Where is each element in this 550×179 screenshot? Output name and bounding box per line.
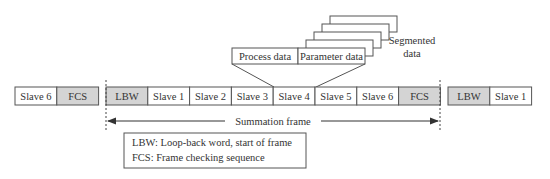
parameter-data-label: Parameter data xyxy=(300,51,363,62)
cell-label: LBW xyxy=(115,91,138,102)
next-frame-head: LBWSlave 1 xyxy=(448,87,532,105)
frame-cell-slave-1: Slave 1 xyxy=(148,87,190,105)
legend-lbw: LBW: Loop-back word, start of frame xyxy=(132,137,292,148)
cell-label: Slave 4 xyxy=(278,91,310,102)
segmented-data-label-line2: data xyxy=(403,48,421,59)
cell-label: Slave 6 xyxy=(362,91,393,102)
cell-label: Slave 1 xyxy=(495,91,526,102)
next-cell-slave-1: Slave 1 xyxy=(490,87,532,105)
summation-frame-label: Summation frame xyxy=(235,116,311,127)
interbus-frame-diagram: Process data Parameter data Segmented da… xyxy=(0,0,550,179)
cell-label: Slave 6 xyxy=(20,91,51,102)
process-data-label: Process data xyxy=(239,51,292,62)
expansion-line-left xyxy=(232,64,274,87)
previous-frame-tail: Slave 6FCS xyxy=(15,87,99,105)
frame-cell-slave-5: Slave 5 xyxy=(315,87,357,105)
cell-label: Slave 1 xyxy=(153,91,184,102)
prev-cell-fcs: FCS xyxy=(57,87,99,105)
frame-cell-slave-6: Slave 6 xyxy=(357,87,399,105)
frame-cell-fcs: FCS xyxy=(399,87,441,105)
segmented-data-label-line1: Segmented xyxy=(389,35,436,46)
cell-label: FCS xyxy=(410,91,429,102)
frame-cell-slave-2: Slave 2 xyxy=(190,87,232,105)
frame-cell-lbw: LBW xyxy=(106,87,148,105)
frame-cell-slave-4: Slave 4 xyxy=(273,87,315,105)
cell-label: FCS xyxy=(68,91,87,102)
frame-cell-slave-3: Slave 3 xyxy=(231,87,273,105)
summation-frame-cells: LBWSlave 1Slave 2Slave 3Slave 4Slave 5Sl… xyxy=(106,87,440,105)
legend-box: LBW: Loop-back word, start of frame FCS:… xyxy=(124,133,306,168)
legend-fcs: FCS: Frame checking sequence xyxy=(132,152,265,163)
expanded-slave-box: Process data Parameter data xyxy=(232,48,365,87)
expansion-line-right xyxy=(316,64,365,87)
cell-label: Slave 3 xyxy=(237,91,268,102)
cell-label: Slave 2 xyxy=(195,91,226,102)
prev-cell-slave-6: Slave 6 xyxy=(15,87,57,105)
cell-label: LBW xyxy=(457,91,480,102)
cell-label: Slave 5 xyxy=(320,91,351,102)
next-cell-lbw: LBW xyxy=(448,87,490,105)
